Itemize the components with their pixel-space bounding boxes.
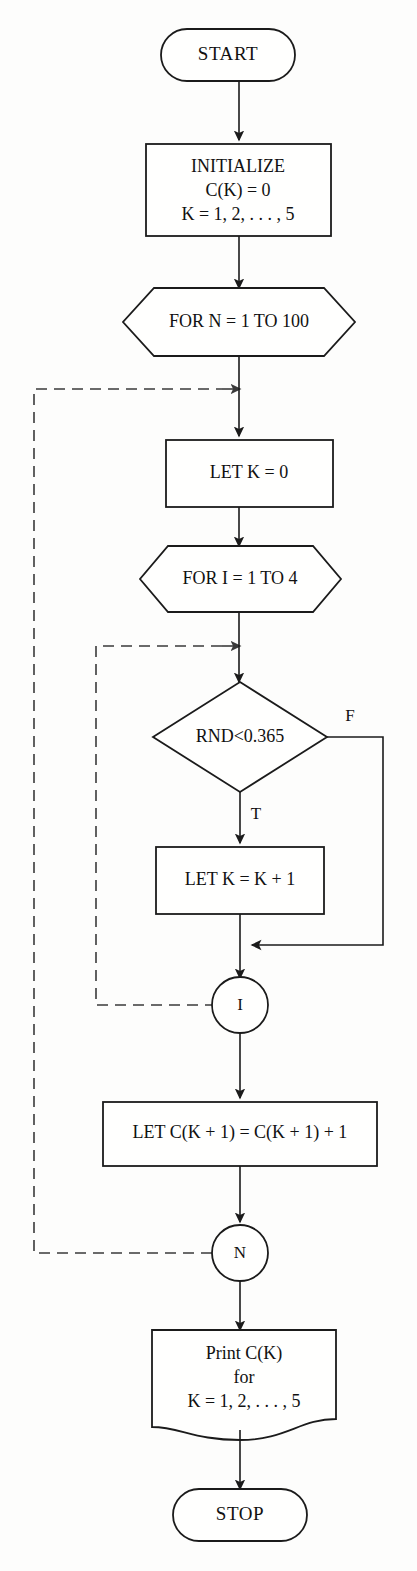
node-print-line3: K = 1, 2, . . . , 5 bbox=[187, 1391, 300, 1411]
flowchart-canvas: START INITIALIZE C(K) = 0 K = 1, 2, . . … bbox=[0, 0, 417, 1571]
node-initialize-line2: C(K) = 0 bbox=[205, 180, 270, 201]
edge-decision-true: T bbox=[240, 792, 262, 843]
node-let-k-zero-label: LET K = 0 bbox=[210, 462, 288, 482]
node-let-c-label: LET C(K + 1) = C(K + 1) + 1 bbox=[133, 1122, 348, 1143]
node-print-line1: Print C(K) bbox=[206, 1343, 283, 1364]
node-connector-i-label: I bbox=[237, 995, 243, 1014]
node-initialize[interactable]: INITIALIZE C(K) = 0 K = 1, 2, . . . , 5 bbox=[146, 144, 331, 236]
node-start[interactable]: START bbox=[161, 29, 295, 81]
node-decision-rnd[interactable]: RND<0.365 bbox=[153, 682, 327, 792]
node-let-c[interactable]: LET C(K + 1) = C(K + 1) + 1 bbox=[103, 1102, 377, 1166]
node-let-k-zero[interactable]: LET K = 0 bbox=[166, 440, 333, 507]
node-connector-n-label: N bbox=[234, 1243, 246, 1262]
flowchart-svg: START INITIALIZE C(K) = 0 K = 1, 2, . . … bbox=[0, 0, 417, 1571]
edge-label-false: F bbox=[345, 706, 354, 725]
node-for-n[interactable]: FOR N = 1 TO 100 bbox=[123, 288, 355, 356]
node-let-k-increment[interactable]: LET K = K + 1 bbox=[156, 847, 324, 914]
node-initialize-line1: INITIALIZE bbox=[191, 156, 285, 176]
node-connector-n[interactable]: N bbox=[212, 1225, 268, 1281]
node-stop-label: STOP bbox=[216, 1503, 265, 1524]
node-initialize-line3: K = 1, 2, . . . , 5 bbox=[181, 204, 294, 224]
node-decision-label: RND<0.365 bbox=[196, 726, 285, 746]
edge-label-true: T bbox=[251, 804, 262, 823]
node-for-i-label: FOR I = 1 TO 4 bbox=[182, 568, 297, 588]
node-stop[interactable]: STOP bbox=[173, 1489, 307, 1541]
node-for-n-label: FOR N = 1 TO 100 bbox=[169, 311, 309, 331]
node-print-document[interactable]: Print C(K) for K = 1, 2, . . . , 5 bbox=[152, 1330, 336, 1440]
node-connector-i[interactable]: I bbox=[212, 977, 268, 1033]
node-print-line2: for bbox=[234, 1367, 255, 1387]
node-start-label: START bbox=[198, 43, 259, 64]
node-for-i[interactable]: FOR I = 1 TO 4 bbox=[140, 546, 341, 612]
node-let-k-increment-label: LET K = K + 1 bbox=[185, 869, 295, 889]
